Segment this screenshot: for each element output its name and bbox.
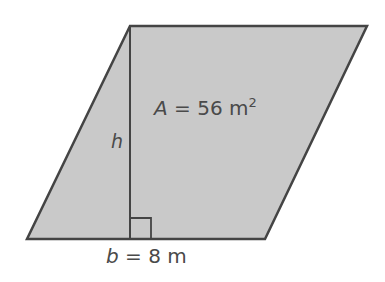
height-label-text: h bbox=[111, 130, 123, 152]
area-value: = 56 m bbox=[168, 96, 249, 120]
base-label: b = 8 m bbox=[106, 244, 187, 268]
area-superscript: 2 bbox=[248, 95, 256, 110]
parallelogram-diagram: h A = 56 m2 b = 8 m bbox=[0, 0, 385, 282]
parallelogram-shape bbox=[27, 26, 367, 239]
area-variable: A bbox=[152, 96, 168, 120]
base-variable: b bbox=[106, 244, 119, 268]
height-label: h bbox=[111, 130, 123, 152]
base-value: = 8 m bbox=[119, 244, 187, 268]
area-label: A = 56 m2 bbox=[152, 95, 257, 120]
